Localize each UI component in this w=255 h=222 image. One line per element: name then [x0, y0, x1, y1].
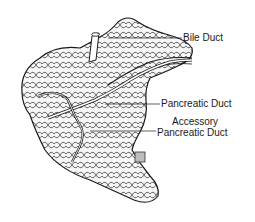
- label-pancreatic-duct: Pancreatic Duct: [161, 98, 232, 109]
- label-bile-duct: Bile Duct: [183, 32, 223, 43]
- artist-logo-icon: [135, 152, 145, 162]
- label-accessory-line1: Accessory: [172, 116, 218, 127]
- pancreas-body: [22, 18, 192, 202]
- label-accessory-line2: Pancreatic Duct: [157, 127, 228, 138]
